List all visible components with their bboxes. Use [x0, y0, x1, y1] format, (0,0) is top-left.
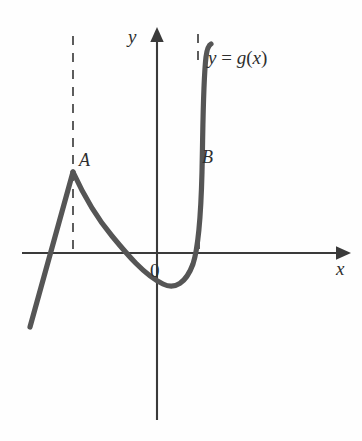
x-axis-label: x: [336, 259, 344, 278]
curve-equation-label: y = g(x): [208, 48, 267, 67]
equation-argument: x: [252, 47, 260, 68]
equation-equals: =: [216, 47, 236, 68]
equation-paren-close: ): [261, 47, 267, 68]
y-axis-label: y: [128, 27, 136, 46]
equation-function: g: [237, 47, 247, 68]
curve-left-branch: [30, 172, 73, 327]
graph-figure: y x 0 A B y = g(x): [0, 0, 362, 441]
origin-label: 0: [150, 261, 160, 280]
point-b-label: B: [202, 148, 213, 166]
curve-right-branch: [73, 44, 211, 286]
graph-canvas: [0, 0, 362, 441]
point-a-label: A: [79, 151, 90, 169]
